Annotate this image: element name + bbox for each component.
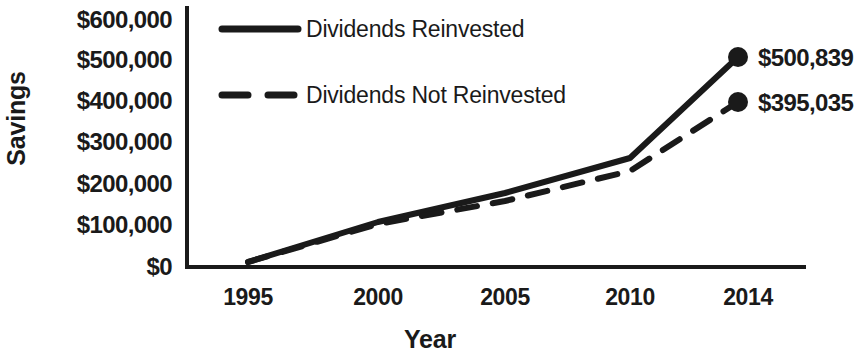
x-tick-label-2014: 2014 [688, 284, 808, 311]
x-tick-label-1995: 1995 [188, 284, 308, 311]
x-axis-title: Year [330, 325, 530, 354]
x-tick-label-2010: 2010 [570, 284, 690, 311]
x-axis-tick-labels: 1995 2000 2005 2010 2014 [0, 0, 865, 360]
x-tick-label-2000: 2000 [318, 284, 438, 311]
x-tick-label-2005: 2005 [445, 284, 565, 311]
savings-growth-line-chart: Savings $600,000 $500,000 $400,000 $300,… [0, 0, 865, 360]
